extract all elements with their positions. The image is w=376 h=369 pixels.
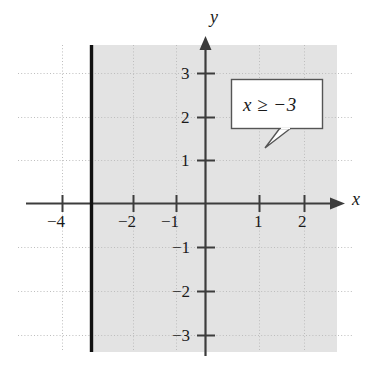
y-axis-label: y <box>210 8 218 26</box>
y-tick-label-pos3: 3 <box>181 65 190 82</box>
x-tick-label-neg2: −2 <box>118 213 136 230</box>
x-axis-label: x <box>352 190 360 208</box>
y-tick-label-neg2: −2 <box>172 283 190 300</box>
y-tick-label-neg1: −1 <box>172 239 190 256</box>
y-tick-label-pos1: 1 <box>181 152 190 169</box>
x-tick-label-neg4: −4 <box>47 213 65 230</box>
inequality-callout-label: x ≥ −3 <box>243 95 297 114</box>
x-axis-arrowhead <box>330 198 345 210</box>
y-axis-arrowhead <box>200 36 212 50</box>
y-tick-label-pos2: 2 <box>181 109 190 126</box>
y-tick-label-neg3: −3 <box>172 327 190 344</box>
inequality-graph-figure: −4 −2 −1 1 2 3 2 1 −1 −2 −3 y x x ≥ −3 <box>0 0 376 369</box>
x-tick-label-neg1: −1 <box>161 213 179 230</box>
x-tick-label-pos2: 2 <box>298 213 307 230</box>
coordinate-plane <box>0 0 376 369</box>
x-tick-label-pos1: 1 <box>254 213 263 230</box>
